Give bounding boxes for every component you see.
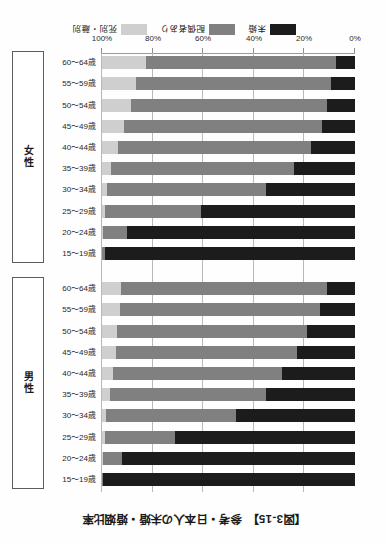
- bar-segment: [320, 303, 355, 316]
- bar-segment: [131, 99, 327, 112]
- category-label: 20～24歳: [62, 452, 96, 465]
- stacked-bar: [102, 452, 355, 465]
- stacked-bar: [102, 205, 355, 218]
- bar-segment: [102, 77, 136, 90]
- category-label: 45～49歳: [62, 120, 96, 133]
- bar-segment: [327, 282, 355, 295]
- bar-segment: [307, 325, 355, 338]
- rotated-figure-canvas: 【図3-15】 参考・日本人の未婚・婚姻比率 未婚配偶者あり死別・離別 0%20…: [0, 0, 388, 542]
- bar-segment: [266, 388, 355, 401]
- bar-segment: [294, 162, 355, 175]
- bar-segment: [106, 409, 236, 422]
- bar-segment: [102, 409, 106, 422]
- stacked-bar: [102, 282, 355, 295]
- bar-segment: [103, 226, 127, 239]
- category-label: 15～19歳: [62, 473, 96, 486]
- bar-segment: [113, 367, 281, 380]
- stacked-bar: [102, 325, 355, 338]
- bar-segment: [175, 431, 355, 444]
- bar-segment: [102, 183, 107, 196]
- category-label: 15～19歳: [62, 247, 96, 260]
- axis-tick-label: 100%: [92, 34, 112, 43]
- bar-segment: [297, 346, 355, 359]
- stacked-bar: [102, 120, 355, 133]
- axis-tick-label: 20%: [296, 34, 312, 43]
- group-label: 女性: [21, 145, 36, 169]
- bar-segment: [103, 452, 122, 465]
- axis-tick-label: 80%: [145, 34, 161, 43]
- bar-segment: [102, 56, 146, 69]
- bar-segment: [102, 473, 103, 486]
- group-label: 男性: [21, 371, 36, 395]
- bar-segment: [102, 303, 120, 316]
- stacked-bar: [102, 367, 355, 380]
- axis-tick: [202, 48, 203, 53]
- bar-segment: [102, 247, 105, 260]
- bar-segment: [282, 367, 355, 380]
- stacked-bar: [102, 247, 355, 260]
- bar-segment: [311, 141, 355, 154]
- bar-segment: [120, 303, 320, 316]
- bar-segment: [102, 367, 113, 380]
- axis-tick: [354, 48, 355, 53]
- axis-tick-label: 40%: [246, 34, 262, 43]
- figure-sheet: 【図3-15】 参考・日本人の未婚・婚姻比率 未婚配偶者あり死別・離別 0%20…: [0, 0, 388, 542]
- category-label: 25～29歳: [62, 431, 96, 444]
- figure-title: 【図3-15】 参考・日本人の未婚・婚姻比率: [0, 512, 388, 528]
- stacked-bar: [102, 77, 355, 90]
- stacked-bar: [102, 431, 355, 444]
- bar-segment: [127, 226, 355, 239]
- stacked-bar: [102, 183, 355, 196]
- category-label: 25～29歳: [62, 205, 96, 218]
- stacked-bar: [102, 141, 355, 154]
- category-label: 55～59歳: [62, 77, 96, 90]
- bar-segment: [102, 452, 103, 465]
- category-label: 55～59歳: [62, 303, 96, 316]
- stacked-bar: [102, 162, 355, 175]
- bar-segment: [111, 162, 294, 175]
- stacked-bar: [102, 346, 355, 359]
- stacked-bar: [102, 388, 355, 401]
- bar-segment: [266, 183, 355, 196]
- bar-segment: [102, 162, 111, 175]
- x-axis-line: [102, 53, 355, 54]
- bar-segment: [107, 183, 266, 196]
- stacked-bar: [102, 226, 355, 239]
- bar-segment: [105, 205, 201, 218]
- category-label: 35～39歳: [62, 388, 96, 401]
- axis-tick: [101, 48, 102, 53]
- legend-swatch: [121, 25, 147, 36]
- category-label: 20～24歳: [62, 226, 96, 239]
- bar-segment: [336, 56, 355, 69]
- bar-segment: [118, 141, 310, 154]
- category-label: 50～54歳: [62, 99, 96, 112]
- bar-segment: [102, 120, 124, 133]
- stacked-bar: [102, 473, 355, 486]
- bar-segment: [331, 77, 355, 90]
- stacked-bar: [102, 56, 355, 69]
- bar-segment: [102, 226, 103, 239]
- category-label: 40～44歳: [62, 367, 96, 380]
- group-bracket: 男性: [12, 277, 44, 489]
- bar-segment: [102, 346, 116, 359]
- bar-segment: [102, 282, 121, 295]
- chart-plot-area: 0%20%40%60%80%100%15～19歳20～24歳25～29歳30～3…: [102, 53, 355, 492]
- bar-segment: [122, 452, 355, 465]
- bar-segment: [102, 99, 131, 112]
- category-label: 60～64歳: [62, 56, 96, 69]
- category-label: 60～64歳: [62, 282, 96, 295]
- axis-tick: [303, 48, 304, 53]
- bar-segment: [121, 282, 327, 295]
- bar-segment: [102, 141, 118, 154]
- stacked-bar: [102, 303, 355, 316]
- category-label: 50～54歳: [62, 325, 96, 338]
- bar-segment: [110, 388, 267, 401]
- axis-tick: [152, 48, 153, 53]
- bar-segment: [105, 247, 355, 260]
- bar-segment: [136, 77, 331, 90]
- category-label: 45～49歳: [62, 346, 96, 359]
- category-label: 35～39歳: [62, 162, 96, 175]
- bar-segment: [105, 431, 176, 444]
- category-label: 30～34歳: [62, 183, 96, 196]
- legend-swatch: [270, 25, 296, 36]
